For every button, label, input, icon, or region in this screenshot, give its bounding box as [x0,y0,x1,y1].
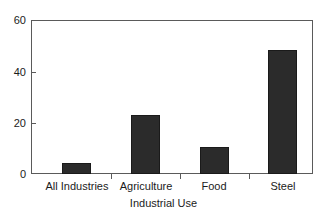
bar-agriculture [131,115,160,174]
y-tick-label-0: 0 [20,169,26,180]
y-axis-tick-labels: 60 40 20 0 [0,0,26,220]
bar-chart: 60 40 20 0 All Industries Agriculture Fo… [0,0,327,220]
x-axis-title: Industrial Use [0,197,327,210]
y-tick-label-40: 40 [14,67,26,78]
x-tick-label-all-industries: All Industries [46,180,109,193]
x-tick-label-food: Food [201,180,226,193]
bar-steel [268,50,297,174]
x-tick-label-steel: Steel [270,180,295,193]
x-tick-label-agriculture: Agriculture [120,180,173,193]
y-tick-label-60: 60 [14,15,26,26]
x-tick-mark-1 [111,174,112,179]
x-tick-mark-3 [249,174,250,179]
y-tick-label-20: 20 [14,118,26,129]
bar-food [200,147,229,174]
bar-all-industries [62,163,91,174]
x-tick-mark-2 [180,174,181,179]
bars-layer [32,21,312,174]
